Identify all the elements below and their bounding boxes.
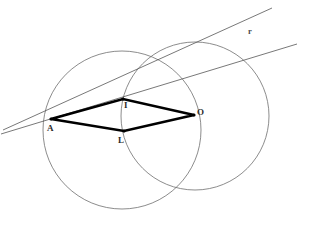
vertex-point-L — [122, 129, 125, 132]
vertex-point-A — [49, 117, 52, 120]
vertex-label-I: I — [124, 101, 128, 110]
vertex-label-L: L — [118, 136, 124, 145]
line-s — [1, 44, 297, 134]
vertex-label-A: A — [47, 124, 54, 133]
rhombus-AILO — [51, 99, 194, 131]
line-label-r: r — [248, 27, 252, 36]
line-r — [3, 8, 272, 130]
vertex-label-O: O — [197, 108, 204, 117]
geometry-canvas — [0, 0, 313, 225]
geometry-diagram: A I L O r — [0, 0, 313, 225]
vertex-point-O — [192, 113, 195, 116]
